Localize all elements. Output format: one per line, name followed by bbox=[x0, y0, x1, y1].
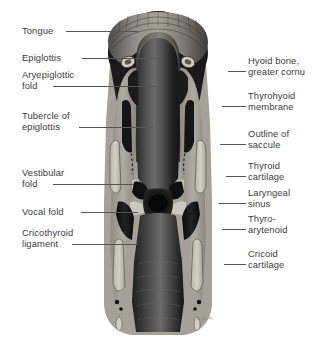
label-line: ligament bbox=[22, 238, 73, 249]
leader-line-thyroid-cartilage bbox=[226, 176, 246, 177]
label-line: Thyrohyoid bbox=[248, 90, 295, 101]
label-thyro-arytenoid: Thyro-arytenoid bbox=[248, 213, 287, 235]
leader-line-thyro-arytenoid bbox=[222, 229, 246, 230]
label-line: cartilage bbox=[248, 259, 284, 270]
label-thyrohyoid-membrane: Thyrohyoidmembrane bbox=[248, 90, 295, 112]
label-line: fold bbox=[22, 178, 64, 189]
leader-line-cricoid-cartilage bbox=[224, 264, 246, 265]
label-line: Tongue bbox=[22, 25, 53, 36]
label-vestibular-fold: Vestibularfold bbox=[22, 167, 64, 189]
label-line: sinus bbox=[248, 198, 290, 209]
leader-line-tubercle-epiglottis bbox=[79, 127, 153, 128]
label-aryepiglottic-fold: Aryepiglotticfold bbox=[22, 69, 74, 91]
label-line: Laryngeal bbox=[248, 187, 290, 198]
label-line: Tubercle of bbox=[22, 110, 70, 121]
label-line: Vestibular bbox=[22, 167, 64, 178]
label-line: arytenoid bbox=[248, 224, 287, 235]
label-line: Thyroid bbox=[248, 160, 284, 171]
label-line: cartilage bbox=[248, 171, 284, 182]
larynx-illustration bbox=[88, 2, 228, 339]
leader-line-vocal-fold bbox=[81, 212, 138, 213]
laryngeal-vestibule-lumen bbox=[136, 38, 180, 192]
leader-line-hyoid-bone bbox=[228, 71, 246, 72]
label-line: Aryepiglottic bbox=[22, 69, 74, 80]
label-outline-of-saccule: Outline ofsaccule bbox=[248, 128, 289, 150]
label-hyoid-bone: Hyoid bone,greater cornu bbox=[248, 55, 305, 77]
leader-line-thyrohyoid-membrane bbox=[222, 106, 246, 107]
label-line: Vocal fold bbox=[22, 206, 64, 217]
label-line: epiglottis bbox=[22, 121, 70, 132]
subglottic-trachea-lumen bbox=[132, 213, 184, 332]
leader-line-tongue bbox=[66, 31, 138, 32]
label-line: Outline of bbox=[248, 128, 289, 139]
label-line: greater cornu bbox=[248, 66, 305, 77]
larynx-coronal-section-figure: A.H.W. Tongue Epiglottis Aryepiglotticfo… bbox=[0, 0, 313, 343]
label-epiglottis: Epiglottis bbox=[22, 52, 61, 63]
label-line: saccule bbox=[248, 139, 289, 150]
leader-line-outline-of-saccule bbox=[220, 144, 246, 145]
label-tubercle-epiglottis: Tubercle ofepiglottis bbox=[22, 110, 70, 132]
leader-line-laryngeal-sinus bbox=[219, 203, 246, 204]
label-line: Hyoid bone, bbox=[248, 55, 305, 66]
label-line: Epiglottis bbox=[22, 52, 61, 63]
label-line: Thyro- bbox=[248, 213, 287, 224]
label-line: membrane bbox=[248, 101, 295, 112]
label-vocal-fold: Vocal fold bbox=[22, 206, 64, 217]
label-tongue: Tongue bbox=[22, 25, 53, 36]
label-cricoid-cartilage: Cricoidcartilage bbox=[248, 248, 284, 270]
leader-line-epiglottis bbox=[82, 58, 162, 59]
label-laryngeal-sinus: Laryngealsinus bbox=[248, 187, 290, 209]
label-line: Cricoid bbox=[248, 248, 284, 259]
larynx-anatomy-drawing bbox=[88, 2, 228, 339]
label-thyroid-cartilage: Thyroidcartilage bbox=[248, 160, 284, 182]
label-cricothyroid-ligament: Cricothyroidligament bbox=[22, 227, 73, 249]
leader-line-vestibular-fold bbox=[53, 184, 134, 185]
label-line: Cricothyroid bbox=[22, 227, 73, 238]
label-line: fold bbox=[22, 80, 74, 91]
leader-line-cricothyroid-ligament bbox=[72, 244, 138, 245]
